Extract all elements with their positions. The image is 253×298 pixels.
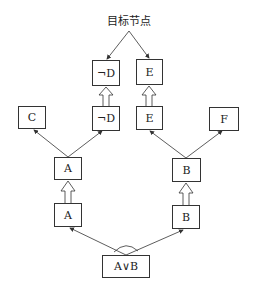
node-e-goal: E bbox=[136, 59, 163, 85]
node-b-lower: B bbox=[172, 205, 200, 229]
node-not-d: ¬D bbox=[92, 106, 120, 131]
node-e: E bbox=[136, 106, 163, 130]
node-b-upper: B bbox=[172, 158, 201, 182]
node-f: F bbox=[209, 107, 239, 131]
node-a-lower: A bbox=[54, 203, 82, 227]
node-a-upper: A bbox=[54, 157, 82, 180]
node-a-or-b: A∨B bbox=[102, 255, 150, 278]
node-c: C bbox=[18, 106, 46, 129]
node-not-d-goal: ¬D bbox=[92, 60, 120, 86]
diagram-edges bbox=[0, 0, 253, 298]
